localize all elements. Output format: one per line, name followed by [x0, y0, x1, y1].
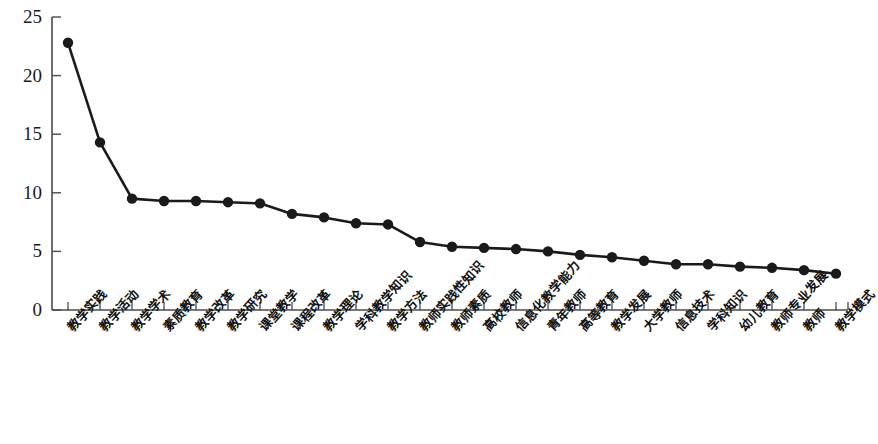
- data-point-marker: [767, 263, 777, 273]
- data-point-marker: [223, 197, 233, 207]
- data-point-marker: [351, 218, 361, 228]
- data-point-marker: [191, 196, 201, 206]
- data-point-marker: [255, 198, 265, 208]
- data-point-marker: [127, 193, 137, 203]
- data-point-marker: [159, 196, 169, 206]
- data-point-marker: [735, 261, 745, 271]
- data-point-marker: [479, 243, 489, 253]
- data-point-marker: [95, 137, 105, 147]
- data-point-marker: [607, 252, 617, 262]
- data-point-marker: [63, 38, 73, 48]
- data-point-marker: [543, 246, 553, 256]
- data-point-marker: [415, 237, 425, 247]
- data-point-marker: [447, 242, 457, 252]
- data-series-line: [68, 43, 836, 274]
- data-point-marker: [831, 268, 841, 278]
- data-point-marker: [703, 259, 713, 269]
- data-point-marker: [319, 212, 329, 222]
- data-point-marker: [639, 256, 649, 266]
- data-point-marker: [511, 244, 521, 254]
- data-point-marker: [287, 209, 297, 219]
- data-point-marker: [575, 250, 585, 260]
- data-point-marker: [383, 219, 393, 229]
- data-point-marker: [671, 259, 681, 269]
